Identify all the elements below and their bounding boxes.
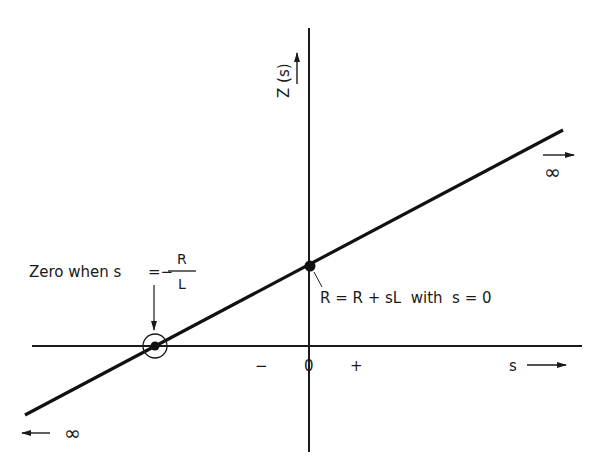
right-infinity-label: ∞	[544, 160, 561, 184]
zero-point	[151, 342, 160, 351]
positive-label: +	[350, 357, 363, 375]
left-infinity-label: ∞	[64, 421, 81, 445]
impedance-diagram: Z (s) ∞ ∞ Zero when s =− R L R = R + sL …	[0, 0, 605, 472]
origin-label: 0	[304, 357, 314, 375]
diagram-canvas: Z (s) ∞ ∞ Zero when s =− R L R = R + sL …	[0, 0, 605, 472]
s-axis-label: s	[509, 357, 517, 375]
intercept-point	[305, 261, 316, 272]
intercept-annotation: R = R + sL with s = 0	[320, 289, 492, 307]
zero-annotation-equals: =−	[148, 263, 173, 281]
intercept-leader-line	[314, 272, 322, 287]
zero-annotation-prefix: Zero when s	[29, 263, 122, 281]
zero-annotation-denominator: L	[178, 276, 186, 292]
z-axis-label: Z (s)	[275, 63, 293, 98]
negative-label: −	[255, 357, 268, 375]
zero-annotation-numerator: R	[177, 251, 187, 267]
